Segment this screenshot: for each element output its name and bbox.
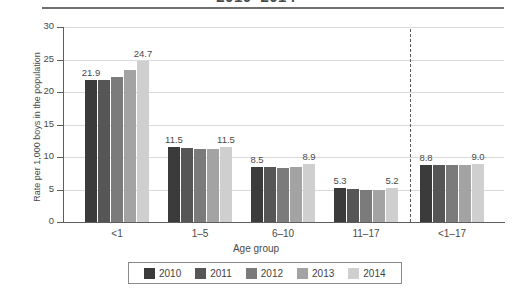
y-tick-label: 30 xyxy=(30,21,54,31)
chart-title: 2010–2014 xyxy=(0,0,512,5)
bar-2013-<1–17[interactable] xyxy=(459,165,471,222)
bar-2012-11–17[interactable] xyxy=(360,190,372,223)
legend-swatch-icon xyxy=(195,268,206,279)
bar-2014-<1[interactable] xyxy=(137,61,149,222)
bar-2014-<1–17[interactable] xyxy=(472,164,484,223)
bar-2014-11–17[interactable] xyxy=(386,188,398,222)
x-axis-line xyxy=(63,222,505,223)
legend-item-2012[interactable]: 2012 xyxy=(246,268,283,279)
bar-2011-11–17[interactable] xyxy=(347,189,359,222)
bar-2013-6–10[interactable] xyxy=(290,167,302,222)
bar-2013-1–5[interactable] xyxy=(207,149,219,222)
x-axis-title: Age group xyxy=(0,243,512,254)
y-tick-label: 25 xyxy=(30,54,54,64)
bar-2014-6–10[interactable] xyxy=(303,164,315,222)
bar-value-label: 24.7 xyxy=(126,48,160,59)
bar-2010-1–5[interactable] xyxy=(168,147,180,222)
y-tick-mark xyxy=(57,92,63,93)
legend-item-2010[interactable]: 2010 xyxy=(144,268,181,279)
x-group-label: 6–10 xyxy=(238,228,328,239)
legend-label: 2012 xyxy=(261,268,283,279)
bar-2011-<1[interactable] xyxy=(98,80,110,222)
legend-swatch-icon xyxy=(144,268,155,279)
bar-value-label: 8.8 xyxy=(409,152,443,163)
legend-label: 2010 xyxy=(159,268,181,279)
bar-2010-6–10[interactable] xyxy=(251,167,263,222)
y-tick-mark xyxy=(57,157,63,158)
bar-2013-11–17[interactable] xyxy=(373,190,385,222)
legend-label: 2014 xyxy=(363,268,385,279)
bars xyxy=(251,27,315,222)
legend-item-2013[interactable]: 2013 xyxy=(297,268,334,279)
y-tick-mark xyxy=(57,27,63,28)
y-tick-label: 20 xyxy=(30,86,54,96)
y-tick-label: 5 xyxy=(30,184,54,194)
x-group-label: <1 xyxy=(72,228,162,239)
legend-label: 2011 xyxy=(210,268,232,279)
y-tick-label: 10 xyxy=(30,151,54,161)
bar-2012-<1–17[interactable] xyxy=(446,165,458,222)
bar-2011-1–5[interactable] xyxy=(181,148,193,222)
bar-2010-11–17[interactable] xyxy=(334,188,346,222)
bar-2014-1–5[interactable] xyxy=(220,147,232,222)
title-rule-divider xyxy=(42,7,504,9)
bars xyxy=(168,27,232,222)
bar-value-label: 8.9 xyxy=(292,151,326,162)
chart-legend: 20102011201220132014 xyxy=(128,262,402,284)
y-tick-mark xyxy=(57,222,63,223)
bar-2010-<1–17[interactable] xyxy=(420,165,432,222)
legend-label: 2013 xyxy=(312,268,334,279)
bar-value-label: 11.5 xyxy=(209,134,243,145)
legend-swatch-icon xyxy=(297,268,308,279)
group-divider-dashed-line xyxy=(410,29,411,222)
y-tick-mark xyxy=(57,125,63,126)
bar-value-label: 8.5 xyxy=(240,154,274,165)
y-tick-mark xyxy=(57,60,63,61)
bar-2010-<1[interactable] xyxy=(85,80,97,222)
bars xyxy=(420,27,484,222)
y-axis-line xyxy=(63,27,64,223)
x-group-label: 1–5 xyxy=(155,228,245,239)
legend-item-2014[interactable]: 2014 xyxy=(348,268,385,279)
legend-swatch-icon xyxy=(348,268,359,279)
chart-title-strip: 2010–2014 xyxy=(0,0,512,7)
legend-swatch-icon xyxy=(246,268,257,279)
y-tick-mark xyxy=(57,190,63,191)
bar-value-label: 11.5 xyxy=(157,134,191,145)
bar-2012-1–5[interactable] xyxy=(194,149,206,222)
x-group-label: <1–17 xyxy=(407,228,497,239)
bar-value-label: 5.3 xyxy=(323,175,357,186)
x-group-label: 11–17 xyxy=(321,228,411,239)
bar-value-label: 9.0 xyxy=(461,151,495,162)
legend-item-2011[interactable]: 2011 xyxy=(195,268,232,279)
bar-value-label: 21.9 xyxy=(74,67,108,78)
bar-2011-6–10[interactable] xyxy=(264,167,276,222)
bar-2013-<1[interactable] xyxy=(124,70,136,222)
y-tick-label: 15 xyxy=(30,119,54,129)
bar-2011-<1–17[interactable] xyxy=(433,165,445,222)
bars xyxy=(334,27,398,222)
bar-2012-<1[interactable] xyxy=(111,77,123,222)
y-tick-label: 0 xyxy=(30,216,54,226)
bar-value-label: 5.2 xyxy=(375,175,409,186)
bar-2012-6–10[interactable] xyxy=(277,168,289,222)
